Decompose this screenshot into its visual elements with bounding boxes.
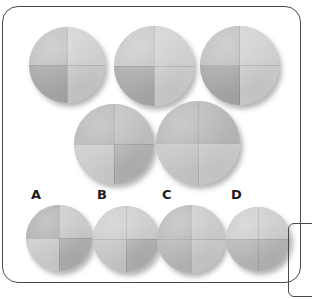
option-c[interactable] [157, 205, 225, 273]
quadrant-bottom-left [156, 143, 198, 185]
puzzle-canvas: ABCD [0, 0, 312, 299]
quadrant-bottom-right [67, 65, 105, 103]
quadrant-bottom-right [198, 143, 240, 185]
quadrant-bottom-left [114, 66, 154, 106]
quadrant-top-left [74, 104, 114, 144]
quadrant-bottom-right [154, 66, 194, 106]
quadrant-bottom-right [191, 239, 225, 273]
quadrant-bottom-right [59, 238, 92, 271]
quadrant-bottom-left [226, 239, 258, 271]
quadrant-top-right [154, 26, 194, 66]
quadrant-bottom-right [258, 239, 290, 271]
quadrant-bottom-right [240, 66, 280, 106]
quadrant-bottom-left [74, 144, 114, 184]
quadrant-top-right [67, 27, 105, 65]
quadrant-top-right [240, 26, 280, 66]
quadrant-top-left [156, 101, 198, 143]
quadrant-top-right [126, 206, 159, 239]
option-label-a: A [31, 188, 41, 201]
stimulus-circle-3 [200, 26, 279, 105]
quadrant-top-right [258, 207, 290, 239]
quadrant-top-left [226, 207, 258, 239]
quadrant-top-left [157, 205, 191, 239]
option-label-d: D [231, 188, 242, 201]
stimulus-circle-1 [29, 27, 105, 103]
stimulus-circle-5 [156, 101, 240, 185]
quadrant-top-left [200, 26, 240, 66]
quadrant-top-left [114, 26, 154, 66]
quadrant-bottom-left [26, 238, 59, 271]
adjacent-panel-frame [288, 223, 312, 297]
option-a[interactable] [26, 205, 92, 271]
quadrant-top-right [191, 205, 225, 239]
stimulus-circle-4 [74, 104, 154, 184]
quadrant-top-left [93, 206, 126, 239]
quadrant-top-right [59, 205, 92, 238]
option-d[interactable] [226, 207, 290, 271]
quadrant-bottom-left [29, 65, 67, 103]
quadrant-top-left [29, 27, 67, 65]
option-label-b: B [97, 188, 107, 201]
quadrant-top-right [114, 104, 154, 144]
quadrant-bottom-left [157, 239, 191, 273]
option-label-c: C [162, 188, 172, 201]
quadrant-bottom-right [126, 239, 159, 272]
option-b[interactable] [93, 206, 159, 272]
stimulus-circle-2 [114, 26, 194, 106]
quadrant-top-left [26, 205, 59, 238]
quadrant-bottom-left [93, 239, 126, 272]
quadrant-bottom-right [114, 144, 154, 184]
quadrant-top-right [198, 101, 240, 143]
quadrant-bottom-left [200, 66, 240, 106]
